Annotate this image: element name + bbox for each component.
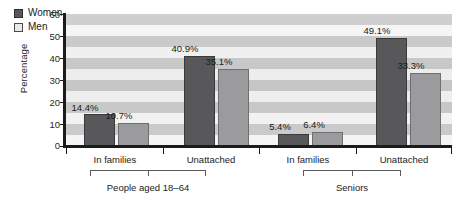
x-tick-mark-1 xyxy=(163,148,164,154)
group-bracket-people-18-64 xyxy=(90,170,206,178)
bar-men-in-families-18-64 xyxy=(118,123,149,147)
x-tick-mark-0 xyxy=(66,148,67,154)
bar-value-label-men-unattached-seniors: 33.3% xyxy=(392,61,430,71)
x-category-label-in-families-18-64: In families xyxy=(74,155,156,165)
bar-men-unattached-seniors xyxy=(410,73,441,146)
bar-men-unattached-18-64 xyxy=(218,69,249,146)
group-label-people-18-64: People aged 18–64 xyxy=(88,183,208,193)
x-category-label-unattached-seniors: Unattached xyxy=(363,155,445,165)
x-tick-mark-3 xyxy=(356,148,357,154)
legend: Women Men xyxy=(14,7,62,35)
bar-women-unattached-seniors xyxy=(376,38,407,146)
bar-value-label-men-unattached-18-64: 35.1% xyxy=(200,57,238,67)
bracket-tick-left xyxy=(303,170,304,176)
legend-item-women: Women xyxy=(14,7,62,19)
x-category-label-unattached-18-64: Unattached xyxy=(170,155,252,165)
bracket-tick-left xyxy=(90,170,91,176)
y-tick-label-30: 30 xyxy=(38,76,60,86)
legend-item-men: Men xyxy=(14,21,62,33)
bar-value-label-women-unattached-18-64: 40.9% xyxy=(166,44,204,54)
bracket-tick-mid xyxy=(148,170,149,176)
bar-chart: Percentage 60 50 40 30 20 10 0 xyxy=(0,0,472,198)
x-category-label-in-families-seniors: In families xyxy=(267,155,349,165)
bar-value-label-men-in-families-seniors: 6.4% xyxy=(295,120,333,130)
y-tick-label-0: 0 xyxy=(38,141,60,151)
legend-swatch-women-icon xyxy=(14,9,23,18)
bar-women-unattached-18-64 xyxy=(184,56,215,146)
group-bracket-seniors xyxy=(303,170,401,178)
bracket-tick-right xyxy=(205,170,206,176)
y-axis-title: Percentage xyxy=(18,29,29,109)
bar-value-label-women-in-families-seniors: 5.4% xyxy=(261,122,299,132)
band-row xyxy=(66,14,452,25)
y-tick-label-10: 10 xyxy=(38,120,60,130)
bar-value-label-women-in-families-18-64: 14.4% xyxy=(66,103,104,113)
bar-value-label-women-unattached-seniors: 49.1% xyxy=(358,26,396,36)
x-tick-mark-4 xyxy=(451,148,452,154)
legend-label-men: Men xyxy=(28,22,47,32)
x-tick-mark-2 xyxy=(259,148,260,154)
y-tick-label-40: 40 xyxy=(38,54,60,64)
group-label-seniors: Seniors xyxy=(302,183,402,193)
bracket-tick-mid xyxy=(352,170,353,176)
bracket-tick-right xyxy=(400,170,401,176)
y-tick-label-20: 20 xyxy=(38,98,60,108)
bar-value-label-men-in-families-18-64: 10.7% xyxy=(100,111,138,121)
legend-label-women: Women xyxy=(28,8,62,18)
x-axis-line xyxy=(63,145,452,148)
legend-swatch-men-icon xyxy=(14,23,23,32)
y-axis-line xyxy=(63,13,66,147)
bar-men-in-families-seniors xyxy=(312,132,343,146)
